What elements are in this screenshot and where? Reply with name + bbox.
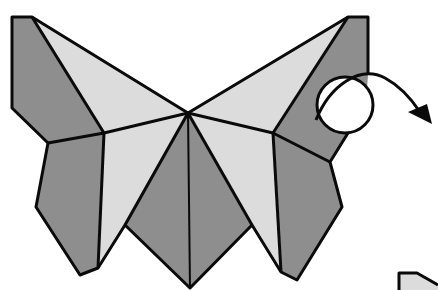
next-step-partial <box>399 273 438 290</box>
origami-butterfly-diagram <box>0 0 438 290</box>
turn-over-arrow-icon <box>316 74 432 133</box>
arrowhead-icon <box>408 104 432 124</box>
